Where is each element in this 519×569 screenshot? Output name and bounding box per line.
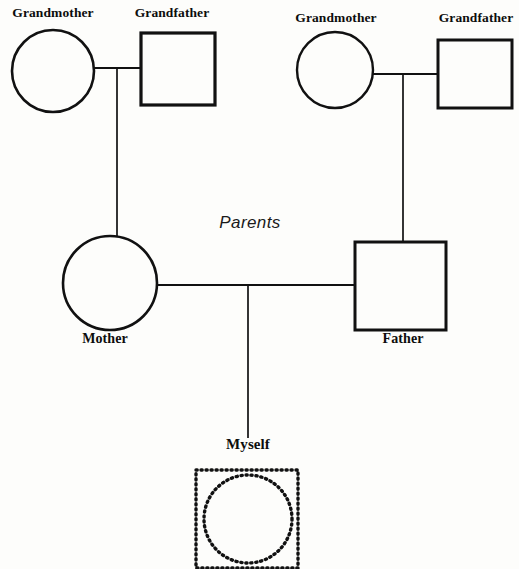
mother-circle[interactable] [63, 236, 157, 330]
node-paternal-grandmother[interactable] [297, 32, 373, 108]
label-mother: Mother [82, 332, 128, 346]
maternal-grandfather-square[interactable] [141, 33, 215, 105]
label-parents-group: Parents [219, 213, 280, 233]
union-parents [157, 285, 355, 438]
label-maternal-grandmother: Grandmother [12, 6, 93, 20]
label-myself: Myself [226, 437, 270, 452]
node-mother[interactable] [63, 236, 157, 330]
myself-circle-dotted[interactable] [204, 475, 292, 563]
union-maternal-grandparents [94, 68, 141, 236]
node-maternal-grandfather[interactable] [141, 33, 215, 105]
maternal-grandmother-circle[interactable] [12, 30, 94, 112]
node-father[interactable] [355, 242, 446, 330]
label-father: Father [382, 332, 423, 346]
father-square[interactable] [355, 242, 446, 330]
label-paternal-grandmother: Grandmother [295, 11, 376, 25]
label-paternal-grandfather: Grandfather [439, 11, 514, 25]
node-paternal-grandfather[interactable] [438, 40, 512, 108]
label-maternal-grandfather: Grandfather [135, 6, 210, 20]
union-paternal-grandparents [373, 74, 438, 242]
node-myself[interactable] [196, 470, 298, 568]
paternal-grandfather-square[interactable] [438, 40, 512, 108]
paternal-grandmother-circle[interactable] [297, 32, 373, 108]
node-maternal-grandmother[interactable] [12, 30, 94, 112]
myself-square-dotted[interactable] [196, 470, 298, 568]
genogram-canvas [0, 0, 519, 569]
